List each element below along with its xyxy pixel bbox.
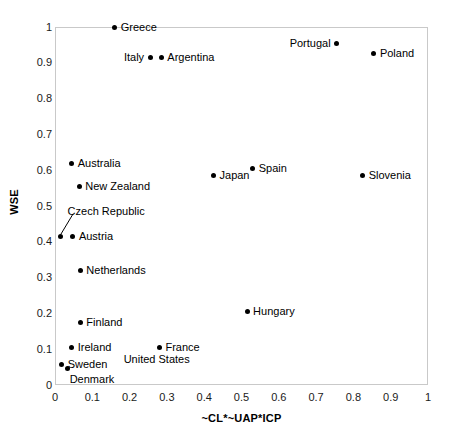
data-point-label: Netherlands — [86, 265, 145, 276]
data-point-marker — [112, 25, 117, 30]
data-point-marker — [360, 173, 365, 178]
data-point-label: Slovenia — [369, 170, 411, 181]
data-point-marker — [69, 345, 74, 350]
data-point-label: Spain — [259, 163, 287, 174]
data-point-marker — [157, 345, 162, 350]
data-point-marker — [250, 166, 255, 171]
data-point-marker — [69, 161, 74, 166]
data-point-marker — [78, 320, 83, 325]
data-point-marker — [65, 366, 70, 371]
data-point-label: Hungary — [253, 306, 295, 317]
x-axis-title: ~CL*~UAP*ICP — [55, 412, 428, 424]
data-point-marker — [211, 173, 216, 178]
data-point-marker — [70, 234, 75, 239]
data-point-marker — [78, 268, 83, 273]
data-point-label: New Zealand — [85, 181, 150, 192]
y-axis-title: WSE — [8, 172, 20, 232]
data-point-marker — [148, 55, 153, 60]
data-point-marker — [334, 41, 339, 46]
data-point-marker — [371, 51, 376, 56]
data-point-label: Austria — [79, 231, 113, 242]
data-point-marker — [58, 234, 63, 239]
data-point-label: France — [165, 342, 199, 353]
data-point-label: Portugal — [290, 38, 331, 49]
data-point-label: United States — [124, 354, 190, 365]
data-point-label: Poland — [380, 48, 414, 59]
data-point-marker — [77, 184, 82, 189]
data-point-label: Denmark — [70, 374, 115, 385]
data-point-label: Czech Republic — [68, 206, 145, 217]
data-point-layer: GreecePortugalPolandItalyArgentinaAustra… — [0, 0, 451, 440]
data-point-label: Japan — [220, 170, 250, 181]
data-point-label: Argentina — [167, 52, 214, 63]
data-point-marker — [159, 55, 164, 60]
data-point-label: Finland — [86, 317, 122, 328]
data-point-marker — [59, 362, 64, 367]
data-point-label: Australia — [78, 158, 121, 169]
data-point-label: Italy — [124, 52, 144, 63]
data-point-label: Ireland — [78, 342, 112, 353]
data-point-label: Greece — [121, 22, 157, 33]
scatter-chart: 00.10.20.30.40.50.60.70.80.91 00.10.20.3… — [0, 0, 451, 440]
data-point-marker — [245, 309, 250, 314]
data-point-label: Sweden — [68, 359, 108, 370]
